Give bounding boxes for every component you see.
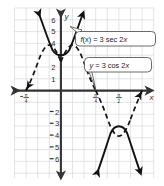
x-tick-pi4-numerator: π (94, 93, 97, 98)
x-tick-neg-pi-denominator: 4 (25, 99, 28, 104)
y-tick-5: 5 (51, 27, 55, 36)
y-tick-2: 2 (51, 63, 55, 72)
callout-secant-var: x (122, 35, 127, 44)
callout-secant-eq: = 3 sec 2 (91, 35, 123, 44)
y-tick-neg-2-value: 2 (55, 108, 59, 117)
callout-cosine-var: x (124, 61, 129, 70)
x-tick-pi2-denominator: 2 (118, 99, 121, 104)
y-tick-1: 1 (51, 75, 55, 84)
y-tick-neg-6-value: 6 (55, 155, 59, 164)
y-tick-4: 4 (51, 39, 55, 48)
callout-secant-text: f(x) = 3 sec 2x (81, 35, 128, 44)
callout-cosine-eq: = 3 cos 2 (93, 61, 125, 70)
x-tick-neg-pi-numerator: π (25, 93, 28, 98)
y-tick-neg-4-value: 4 (55, 131, 59, 140)
y-tick-6: 6 (51, 16, 55, 25)
x-tick-pi4-denominator: 4 (94, 99, 97, 104)
graph-figure: 6 5 4 2 1 2 3 4 5 6 (0, 0, 164, 186)
callout-cosine-text: y = 3 cos 2x (89, 61, 130, 70)
coordinate-plane: 6 5 4 2 1 2 3 4 5 6 (0, 0, 164, 186)
y-tick-neg-5-value: 5 (55, 143, 59, 152)
y-tick-neg-3-value: 3 (55, 119, 59, 128)
callout-secant-arg: (x) (83, 35, 92, 44)
x-tick-pi2-numerator: π (117, 93, 120, 98)
